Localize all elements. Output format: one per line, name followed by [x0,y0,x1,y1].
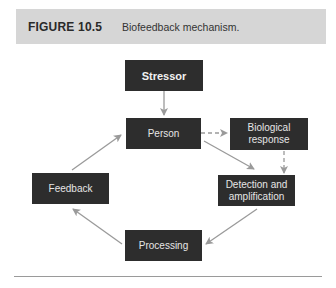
arrow-processing-feedback [73,209,122,244]
node-biological-response: Biological response [230,118,308,150]
node-person-label: Person [148,128,180,140]
arrow-feedback-person [72,135,121,170]
node-feedback-label: Feedback [49,183,93,195]
node-stressor-label: Stressor [142,70,187,82]
node-detection-label: Detection and amplification [221,179,293,203]
node-person: Person [126,118,201,149]
node-detection-amplification: Detection and amplification [218,175,295,206]
node-stressor: Stressor [125,60,203,91]
node-biological-label: Biological response [239,122,299,146]
node-processing: Processing [125,230,202,261]
node-feedback: Feedback [32,173,109,204]
arrow-detection-processing [206,209,257,244]
node-processing-label: Processing [139,240,188,252]
bottom-rule [14,276,322,277]
